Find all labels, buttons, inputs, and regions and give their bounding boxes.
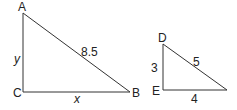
triangle-abc: A C B 8.5 y x [13,0,140,106]
side-ef-label: 4 [191,92,198,106]
side-ac-label: y [13,52,21,66]
side-cb-label: x [73,92,81,106]
vertex-e-label: E [152,84,160,98]
triangle-abc-shape [23,13,130,92]
side-ab-label: 8.5 [81,45,98,59]
similar-triangles-diagram: A C B 8.5 y x D E 5 3 4 [0,0,237,110]
side-de-label: 3 [151,61,158,75]
vertex-d-label: D [158,31,167,45]
vertex-c-label: C [13,86,22,100]
triangle-def: D E 5 3 4 [151,31,227,106]
vertex-b-label: B [132,86,140,100]
side-df-label: 5 [193,55,200,69]
vertex-a-label: A [18,0,26,14]
